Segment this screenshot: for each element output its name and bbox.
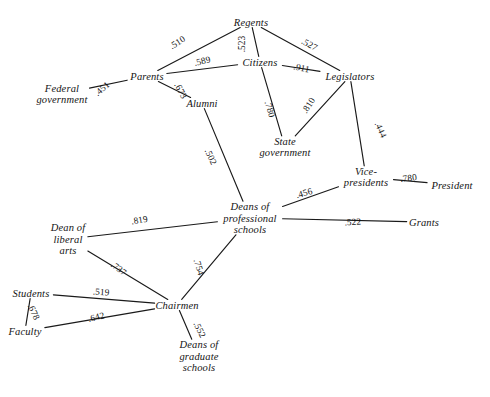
edge-label-vice_pres-president: .780	[400, 172, 418, 184]
node-label-legislators: Legislators	[325, 71, 375, 82]
edge-label-parents-citizens: .589	[193, 54, 212, 68]
node-label-grants: Grants	[409, 217, 439, 228]
network-graph-canvas: .510.523.527.589.911.451.673.780.810.444…	[0, 0, 490, 397]
edge-regents-citizens	[252, 28, 258, 57]
edge-label-federal_gov-parents: .451	[92, 79, 111, 98]
edge-deans_prof-chairmen	[182, 235, 236, 300]
edge-label-legislators-vice_pres: .444	[373, 120, 389, 140]
edge-label-regents-citizens: .523	[237, 35, 247, 52]
edge-label-citizens-state_gov: .780	[263, 100, 278, 119]
edge-legislators-vice_pres	[351, 82, 364, 166]
node-label-students: Students	[13, 288, 50, 299]
edge-label-state_gov-legislators: .810	[300, 95, 317, 115]
node-label-dean_liberal: Dean ofliberalarts	[50, 222, 88, 255]
node-label-deans_prof: Deans ofprofessionalschools	[222, 201, 276, 234]
node-label-deans_grad: Deans ofgraduateschools	[179, 339, 221, 372]
node-label-president: President	[430, 180, 473, 191]
node-label-alumni: Alumni	[185, 98, 217, 109]
network-diagram-figure: .510.523.527.589.911.451.673.780.810.444…	[0, 0, 490, 397]
node-label-chairmen: Chairmen	[155, 300, 198, 311]
edge-chairmen-deans_grad	[179, 311, 191, 340]
node-label-federal_gov: Federalgovernment	[36, 83, 88, 105]
node-label-citizens: Citizens	[242, 57, 277, 68]
edge-label-alumni-deans_prof: .502	[203, 147, 219, 167]
node-label-state_gov: Stategovernment	[259, 136, 311, 158]
edge-label-dean_liberal-deans_prof: .819	[130, 214, 148, 227]
node-label-vice_pres: Vice-presidents	[343, 166, 388, 188]
edge-label-chairmen-deans_grad: .552	[191, 320, 208, 340]
edge-label-deans_prof-vice_pres: .456	[295, 186, 314, 200]
edge-label-dean_liberal-chairmen: .737	[109, 260, 129, 278]
edge-label-faculty-chairmen: .642	[87, 310, 106, 324]
edge-label-parents-regents: .510	[168, 34, 188, 52]
edge-label-students-chairmen: .519	[93, 286, 111, 297]
node-label-regents: Regents	[233, 17, 268, 28]
node-label-faculty: Faculty	[7, 326, 41, 337]
node-label-parents: Parents	[129, 71, 163, 82]
edge-dean_liberal-deans_prof	[88, 222, 218, 237]
edge-label-deans_prof-chairmen: .754	[192, 258, 207, 277]
edge-label-citizens-legislators: .911	[293, 61, 311, 74]
edge-label-deans_prof-grants: .522	[344, 217, 361, 228]
